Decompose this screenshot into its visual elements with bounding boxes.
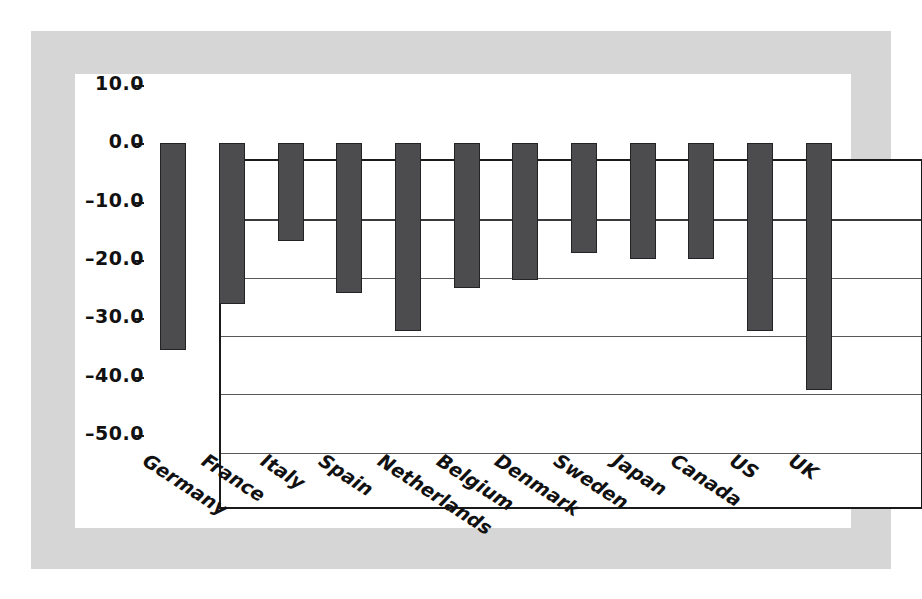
chart-page: 10.00.0–10.0–20.0–30.0–40.0–50.0 Germany… xyxy=(0,0,922,599)
y-axis-tick-label: –50.0 xyxy=(17,422,144,444)
y-axis-tick-label: –20.0 xyxy=(17,247,144,269)
y-axis-tick-label: 10.0 xyxy=(17,72,144,94)
x-axis-labels: GermanyFranceItalySpainNetherlandsBelgiu… xyxy=(144,85,848,435)
y-axis-tick-label: –40.0 xyxy=(17,364,144,386)
y-axis-labels: 10.00.0–10.0–20.0–30.0–40.0–50.0 xyxy=(0,0,144,599)
y-axis-tick-label: 0.0 xyxy=(17,130,144,152)
y-axis-tick-label: –30.0 xyxy=(17,305,144,327)
y-axis-tick-label: –10.0 xyxy=(17,189,144,211)
